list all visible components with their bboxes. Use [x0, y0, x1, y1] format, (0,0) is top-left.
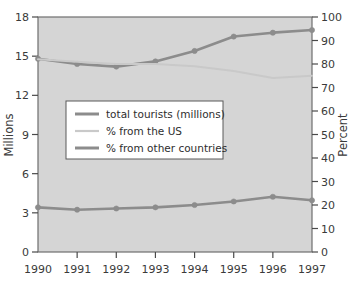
data-point	[231, 34, 236, 39]
right-axis-title: Percent	[336, 113, 350, 157]
data-point	[309, 198, 314, 203]
left-tick-label: 6	[22, 168, 29, 181]
right-tick-label: 50	[321, 129, 335, 142]
data-point	[35, 205, 40, 210]
data-point	[75, 207, 80, 212]
right-tick-label: 30	[321, 176, 335, 189]
right-tick-label: 20	[321, 199, 335, 212]
left-tick-label: 12	[15, 89, 29, 102]
left-tick-label: 18	[15, 11, 29, 24]
bottom-tick-label: 1996	[259, 263, 287, 276]
bottom-tick-label: 1990	[24, 263, 52, 276]
legend-label: % from other countries	[106, 142, 227, 154]
right-tick-label: 0	[321, 246, 328, 259]
bottom-tick-label: 1994	[181, 263, 209, 276]
right-tick-label: 90	[321, 35, 335, 48]
right-tick-label: 60	[321, 105, 335, 118]
tourism-line-chart: 0369121518 0102030405060708090100 199019…	[0, 0, 360, 281]
data-point	[270, 194, 275, 199]
legend-label: total tourists (millions)	[106, 108, 225, 120]
left-axis-title: Millions	[2, 113, 16, 156]
right-tick-label: 70	[321, 82, 335, 95]
chart-container: 0369121518 0102030405060708090100 199019…	[0, 0, 360, 281]
data-point	[192, 202, 197, 207]
bottom-tick-label: 1991	[63, 263, 91, 276]
data-point	[192, 48, 197, 53]
bottom-axis-ticks: 19901991199219931994199519961997	[24, 252, 326, 276]
right-tick-label: 80	[321, 58, 335, 71]
left-tick-label: 0	[22, 246, 29, 259]
legend-label: % from the US	[106, 125, 182, 137]
right-tick-label: 100	[321, 11, 342, 24]
data-point	[153, 205, 158, 210]
chart-legend: total tourists (millions)% from the US% …	[66, 101, 227, 159]
left-tick-label: 3	[22, 207, 29, 220]
left-axis-ticks: 0369121518	[15, 11, 38, 259]
right-tick-label: 40	[321, 152, 335, 165]
data-point	[270, 30, 275, 35]
data-point	[231, 199, 236, 204]
data-point	[309, 27, 314, 32]
bottom-tick-label: 1992	[102, 263, 130, 276]
left-tick-label: 9	[22, 129, 29, 142]
bottom-tick-label: 1997	[298, 263, 326, 276]
left-tick-label: 15	[15, 50, 29, 63]
bottom-tick-label: 1993	[141, 263, 169, 276]
bottom-tick-label: 1995	[220, 263, 248, 276]
data-point	[114, 206, 119, 211]
right-tick-label: 10	[321, 223, 335, 236]
